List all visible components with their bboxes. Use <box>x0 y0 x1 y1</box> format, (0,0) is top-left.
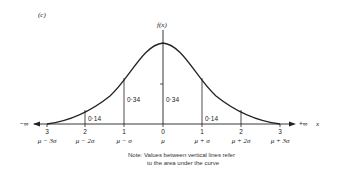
plus-infinity-label: +∞ <box>299 120 308 127</box>
note-line-2: to the area under the curve <box>128 159 235 167</box>
x-axis-label: x <box>315 120 320 128</box>
note-line-1: Note: Values between vertical lines refe… <box>128 152 235 158</box>
y-axis-label: f(x) <box>157 21 167 29</box>
right-arrow-icon <box>289 122 296 127</box>
tick-symbol: μ + 3σ <box>271 137 290 145</box>
area-label-right-outer: 0·14 <box>205 115 218 122</box>
tick-symbol: μ <box>161 137 165 145</box>
tick-num: 2 <box>83 128 87 135</box>
left-arrow-icon <box>33 122 40 127</box>
area-label-left-inner: 0·34 <box>127 96 140 103</box>
tick-num: 1 <box>200 128 204 135</box>
tick-symbol: μ − σ <box>116 137 132 145</box>
tick-num: 0 <box>161 128 165 135</box>
normal-distribution-diagram: (c) f(x) −∞ +∞ x 3 2 1 0 1 2 3 μ − 3σ μ … <box>0 0 338 175</box>
normal-curve <box>47 43 280 124</box>
tick-symbol: μ − 3σ <box>38 137 57 145</box>
tick-symbol: μ − 2σ <box>76 137 95 145</box>
tick-symbol: μ + 2σ <box>232 137 251 145</box>
area-label-right-inner: 0·34 <box>166 96 179 103</box>
tick-num: 1 <box>122 128 126 135</box>
figure-note: Note: Values between vertical lines refe… <box>128 151 235 167</box>
area-label-left-outer: 0·14 <box>88 115 101 122</box>
tick-num: 2 <box>239 128 243 135</box>
minus-infinity-label: −∞ <box>20 120 29 127</box>
panel-label: (c) <box>38 11 46 19</box>
tick-num: 3 <box>278 128 282 135</box>
tick-symbol: μ + σ <box>194 137 210 145</box>
tick-num: 3 <box>45 128 49 135</box>
